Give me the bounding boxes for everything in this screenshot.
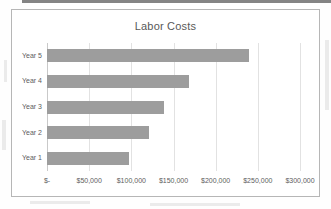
scan-speck — [4, 60, 7, 82]
bar-row[interactable]: Year 3 — [47, 101, 300, 114]
bar-row[interactable]: Year 5 — [47, 49, 300, 62]
bar-row[interactable]: Year 1 — [47, 152, 300, 165]
x-tick-label: $300,000 — [285, 177, 314, 184]
category-label: Year 3 — [22, 103, 42, 110]
bar-row[interactable]: Year 4 — [47, 75, 300, 88]
category-label: Year 2 — [22, 129, 42, 136]
scan-speck — [2, 120, 6, 150]
plot-area: Year 1Year 2Year 3Year 4Year 5 — [47, 43, 300, 171]
category-label: Year 1 — [22, 154, 42, 161]
x-tick-label: $200,000 — [201, 177, 230, 184]
x-tick-label: $250,000 — [243, 177, 272, 184]
bar-year-4[interactable] — [47, 75, 189, 88]
scan-speck — [150, 203, 240, 206]
bar-year-5[interactable] — [47, 49, 249, 62]
gridline — [300, 43, 301, 171]
scan-speck — [30, 201, 90, 204]
x-axis-tick-labels: $-$50,000$100,000$150,000$200,000$250,00… — [47, 177, 300, 189]
x-tick-label: $50,000 — [77, 177, 102, 184]
chart-container: Labor Costs Year 1Year 2Year 3Year 4Year… — [11, 9, 320, 197]
chart-title: Labor Costs — [12, 20, 319, 32]
bar-year-1[interactable] — [47, 152, 129, 165]
scan-edge-band — [22, 0, 331, 3]
x-tick-label: $150,000 — [159, 177, 188, 184]
bar-row[interactable]: Year 2 — [47, 126, 300, 139]
category-label: Year 4 — [22, 77, 42, 84]
category-label: Year 5 — [22, 52, 42, 59]
x-tick-label: $100,000 — [117, 177, 146, 184]
x-tick-label: $- — [44, 177, 50, 184]
bar-year-2[interactable] — [47, 126, 149, 139]
scan-speck — [325, 40, 329, 110]
bar-year-3[interactable] — [47, 101, 164, 114]
